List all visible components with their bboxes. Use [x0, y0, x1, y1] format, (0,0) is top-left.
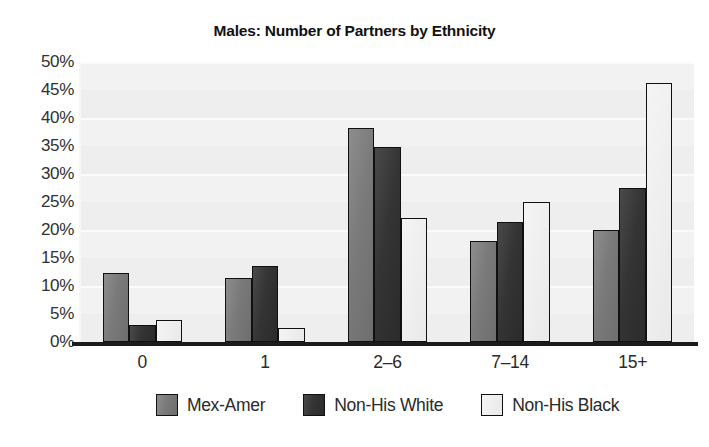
x-axis-tick-label: 2–6: [373, 352, 401, 373]
legend-swatch: [481, 394, 503, 416]
bar: [401, 218, 428, 342]
y-axis-tick-label: 5%: [0, 304, 74, 324]
y-axis: 0%5%10%15%20%25%30%35%40%45%50%: [0, 0, 74, 447]
x-axis-line: [72, 342, 698, 346]
y-axis-tick-label: 50%: [0, 52, 74, 72]
scan-artifact: [38, 432, 298, 447]
y-axis-tick-label: 45%: [0, 80, 74, 100]
y-axis-tick-label: 20%: [0, 220, 74, 240]
bar: [593, 230, 620, 342]
bar-chart: Males: Number of Partners by Ethnicity 0…: [0, 0, 709, 447]
bar: [470, 241, 497, 342]
bar: [129, 325, 156, 342]
legend-swatch: [303, 394, 325, 416]
bar: [497, 222, 524, 342]
bar: [523, 202, 550, 342]
chart-legend: Mex-AmerNon-His WhiteNon-His Black: [81, 389, 694, 421]
bar: [225, 278, 252, 342]
y-axis-tick-label: 0%: [0, 332, 74, 352]
bar: [348, 128, 375, 342]
legend-item: Non-His White: [303, 394, 443, 416]
x-axis: 012–67–1415+: [81, 352, 694, 382]
legend-item: Mex-Amer: [156, 394, 265, 416]
x-axis-tick-label: 15+: [618, 352, 647, 373]
bar: [103, 273, 130, 342]
legend-label: Mex-Amer: [187, 395, 265, 416]
bar: [619, 188, 646, 342]
y-axis-tick-label: 35%: [0, 136, 74, 156]
y-axis-tick-label: 15%: [0, 248, 74, 268]
x-axis-tick-label: 1: [260, 352, 269, 373]
x-axis-tick-label: 0: [138, 352, 147, 373]
bar: [374, 147, 401, 342]
chart-title: Males: Number of Partners by Ethnicity: [0, 22, 709, 40]
y-axis-tick-label: 30%: [0, 164, 74, 184]
bar: [278, 328, 305, 342]
legend-item: Non-His Black: [481, 394, 619, 416]
x-axis-tick-label: 7–14: [491, 352, 529, 373]
bar: [646, 83, 673, 342]
bar-series-container: [81, 62, 694, 342]
y-axis-tick-label: 10%: [0, 276, 74, 296]
legend-label: Non-His White: [334, 395, 443, 416]
bar: [156, 320, 183, 342]
y-axis-tick-label: 25%: [0, 192, 74, 212]
legend-label: Non-His Black: [512, 395, 619, 416]
y-axis-tick-label: 40%: [0, 108, 74, 128]
legend-swatch: [156, 394, 178, 416]
bar: [252, 266, 279, 342]
